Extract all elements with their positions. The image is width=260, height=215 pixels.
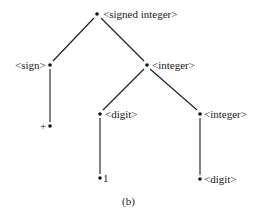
node-label-one: 1 — [103, 172, 109, 184]
node-label-digit-2: <digit> — [204, 173, 237, 185]
node-label-integer: <integer> — [152, 59, 195, 71]
figure-caption: (b) — [122, 195, 135, 207]
node-dot-root — [95, 12, 99, 16]
node-dot-digit2 — [198, 177, 202, 181]
node-label-sign: <sign> — [15, 59, 46, 71]
node-dot-sign — [48, 63, 52, 67]
edge-integer-digit — [103, 69, 144, 110]
edge-integer-integer — [150, 69, 197, 110]
node-dot-integer2 — [198, 112, 202, 116]
node-dot-digit — [98, 112, 102, 116]
edge-root-sign — [53, 18, 94, 61]
node-label-signed-integer: <signed integer> — [103, 8, 177, 20]
node-label-plus: + — [40, 120, 46, 132]
node-dot-integer — [145, 63, 149, 67]
edge-root-integer — [101, 18, 144, 61]
node-label-digit: <digit> — [105, 108, 138, 120]
node-dot-plus — [48, 124, 52, 128]
node-dot-one — [98, 176, 102, 180]
node-label-integer-2: <integer> — [204, 108, 247, 120]
